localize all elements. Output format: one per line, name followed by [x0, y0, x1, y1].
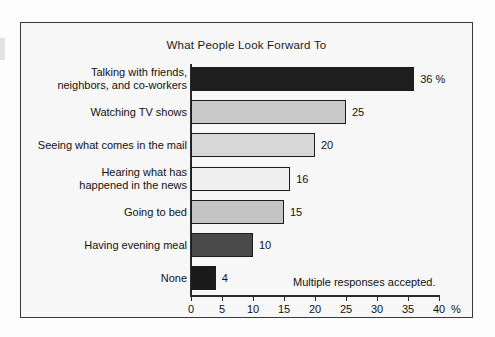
chart-frame: What People Look Forward To Talking with… [20, 22, 473, 318]
plot-area: Talking with friends,neighbors, and co-w… [21, 23, 472, 317]
bar-category-label: Going to bed [29, 205, 187, 218]
x-axis-tick-label: 40 [433, 303, 445, 315]
bar-value-label: 16 [296, 173, 308, 185]
bar-row: Seeing what comes in the mail20 [21, 130, 472, 160]
bar [191, 233, 253, 257]
x-axis-tick [284, 295, 285, 301]
bar [191, 167, 290, 191]
x-axis-tick-label: 0 [188, 303, 194, 315]
bar-value-label: 4 [222, 272, 228, 284]
bar [191, 266, 216, 290]
bar-row: Going to bed15 [21, 197, 472, 227]
bar-category-label: Hearing what hashappened in the news [29, 166, 187, 192]
x-axis-tick [346, 295, 347, 301]
bar [191, 67, 414, 91]
x-axis-unit-label: % [451, 303, 461, 315]
bar-value-label: 20 [321, 139, 333, 151]
bar [191, 133, 315, 157]
x-axis-tick [377, 295, 378, 301]
x-axis-tick [408, 295, 409, 301]
bar-category-label: None [29, 272, 187, 285]
bar-category-label: Having evening meal [29, 239, 187, 252]
bar-value-label: 10 [259, 239, 271, 251]
x-axis-tick [191, 295, 192, 301]
x-axis-tick-label: 5 [219, 303, 225, 315]
bar [191, 100, 346, 124]
scan-edge-artifact [0, 38, 5, 60]
x-axis-tick-label: 35 [402, 303, 414, 315]
x-axis-tick-label: 25 [340, 303, 352, 315]
bar-row: Hearing what hashappened in the news16 [21, 164, 472, 194]
x-axis-tick-label: 15 [278, 303, 290, 315]
bar-row: Having evening meal10 [21, 230, 472, 260]
bar [191, 200, 284, 224]
bar-value-label: 36 % [420, 73, 445, 85]
x-axis-tick-label: 20 [309, 303, 321, 315]
bar-value-label: 25 [352, 106, 364, 118]
bar-category-label: Watching TV shows [29, 106, 187, 119]
x-axis-tick [222, 295, 223, 301]
bar-category-label: Talking with friends,neighbors, and co-w… [29, 66, 187, 92]
bar-row: Watching TV shows25 [21, 97, 472, 127]
x-axis-tick [253, 295, 254, 301]
bar-category-label: Seeing what comes in the mail [29, 139, 187, 152]
x-axis-tick-label: 10 [247, 303, 259, 315]
chart-annotation: Multiple responses accepted. [293, 276, 435, 288]
bar-value-label: 15 [290, 206, 302, 218]
scanned-page: What People Look Forward To Talking with… [0, 0, 495, 337]
x-axis-tick [315, 295, 316, 301]
bar-row: Talking with friends,neighbors, and co-w… [21, 64, 472, 94]
x-axis-tick-label: 30 [371, 303, 383, 315]
x-axis-tick [439, 295, 440, 301]
